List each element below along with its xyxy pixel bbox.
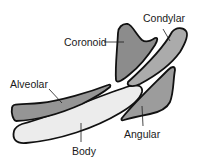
- angular-label: Angular: [124, 128, 161, 140]
- body-label: Body: [72, 145, 97, 157]
- coronoid-label: Coronoid: [64, 36, 107, 48]
- condylar-label: Condylar: [143, 12, 186, 24]
- alveolar-label: Alveolar: [10, 78, 48, 90]
- mandible-diagram: Coronoid Condylar Alveolar Angular Body: [0, 0, 197, 165]
- condylar-leader: [163, 29, 170, 41]
